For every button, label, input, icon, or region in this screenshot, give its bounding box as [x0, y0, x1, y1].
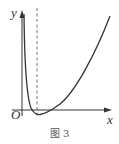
- figure: y O x 图 3: [0, 0, 119, 144]
- y-axis-label: y: [11, 6, 17, 19]
- origin-label: O: [11, 108, 20, 121]
- x-axis-label: x: [107, 113, 113, 126]
- function-graph: [0, 0, 119, 144]
- figure-caption: 图 3: [0, 129, 119, 139]
